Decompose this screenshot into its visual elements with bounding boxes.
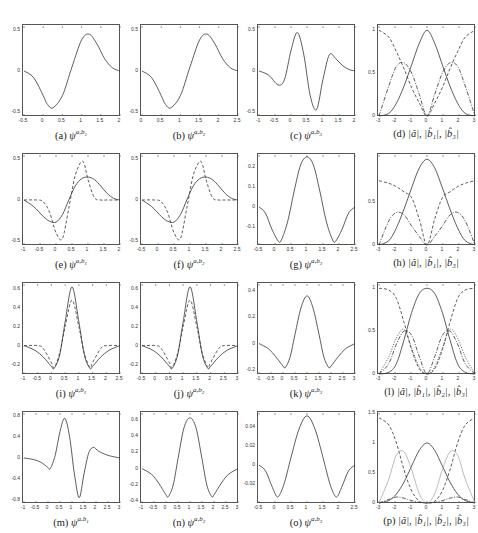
y-tick-label: -0.2 [124, 361, 138, 367]
y-tick-label: -0.5 [241, 108, 255, 114]
panel-caption: (k) ψa,b3 [247, 386, 365, 399]
plot-area [140, 282, 238, 374]
y-tick-label: -0.2 [241, 366, 255, 372]
y-tick-label: 0.2 [241, 313, 255, 319]
x-tick-label: 2.5 [216, 375, 230, 381]
caption-label: (i) [56, 388, 69, 399]
panel-caption: (h) |â|, |b̂₁|, |b̂₃| [367, 257, 478, 268]
x-tick-label: -2 [387, 375, 401, 381]
x-tick-label: 0 [150, 246, 164, 252]
caption-label: (a) [55, 130, 69, 141]
x-tick-label: 0 [267, 504, 281, 510]
plot-area [257, 24, 355, 116]
panel-g: 0.20.10-0.1-0.500.511.522.5(g) ψa,b3 [257, 153, 355, 275]
y-tick-label: 0.04 [241, 423, 255, 429]
caption-subscript: 1 [84, 390, 87, 395]
caption-label: (h) [393, 257, 408, 268]
caption-subscript: 3 [320, 390, 323, 395]
y-tick-label: 0.1 [241, 183, 255, 189]
series-line-solid [259, 33, 355, 110]
psi-symbol: ψ [304, 130, 311, 141]
y-tick-label: -0.5 [124, 237, 138, 243]
panel-b: 0.50-0.500.511.522.5(b) ψa,b2 [140, 24, 238, 146]
x-tick-label: 2.5 [347, 504, 361, 510]
series-line-dashdot [379, 331, 475, 374]
x-tick-label: 1 [80, 246, 94, 252]
x-tick-label: 1 [172, 117, 186, 123]
x-tick-label: 0 [419, 117, 433, 123]
psi-symbol: ψ [186, 388, 193, 399]
panel-h: 0.50-3-2-10123(h) |â|, |b̂₁|, |b̂₃| [377, 153, 475, 275]
series-line-solid [259, 416, 355, 497]
panel-caption: (p) |â|, |b̂₁|, |b̂₂|, |b̂₃| [367, 515, 478, 526]
y-tick-label: 0.5 [361, 198, 375, 204]
curves [141, 154, 239, 246]
plot-area [22, 24, 120, 116]
caption-label: (p) [383, 515, 398, 526]
y-tick-label: 1.5 [361, 409, 375, 415]
x-tick-label: 2 [331, 504, 345, 510]
y-tick-label: 0.4 [124, 432, 138, 438]
caption-label: (b) [173, 130, 188, 141]
curves [378, 25, 476, 117]
y-tick-label: -0.8 [6, 496, 20, 502]
plot-area [22, 282, 120, 374]
x-tick-label: 1.5 [93, 117, 107, 123]
y-tick-label: 1 [361, 439, 375, 445]
x-tick-label: 0 [48, 246, 62, 252]
series-line-solid [379, 288, 475, 374]
caption-subscript: 3 [320, 519, 323, 524]
y-tick-label: 0.5 [124, 26, 138, 32]
caption-subscript: 2 [202, 390, 205, 395]
series-line-dashed [142, 300, 238, 368]
y-tick-label: 0 [241, 203, 255, 209]
plot-area [257, 411, 355, 503]
panel-caption: (o) ψa,b3 [247, 515, 365, 528]
y-tick-label: 0 [124, 465, 138, 471]
plot-area [257, 282, 355, 374]
y-tick-label: 0 [6, 67, 20, 73]
x-tick-label: -0.5 [251, 246, 265, 252]
x-tick-label: 0 [134, 117, 148, 123]
panel-caption: (a) ψa,b1 [12, 128, 130, 141]
curves [23, 25, 121, 117]
caption-superscript: a,b3 [311, 515, 322, 523]
x-tick-label: 2 [451, 117, 465, 123]
x-tick-label: 1.5 [315, 504, 329, 510]
panel-i: 0.60.40.20-0.2-1-0.500.511.522.5(i) ψa,b… [22, 282, 120, 404]
x-tick-label: -2 [387, 246, 401, 252]
x-tick-label: 2 [451, 375, 465, 381]
panel-caption: (f) ψa,b2 [130, 257, 248, 270]
x-tick-label: -2 [387, 504, 401, 510]
plot-area [140, 411, 238, 503]
y-tick-label: -0.2 [124, 481, 138, 487]
x-tick-label: 0.5 [283, 246, 297, 252]
x-tick-label: 0 [283, 117, 297, 123]
x-tick-label: 0 [419, 246, 433, 252]
x-tick-label: -1 [403, 117, 417, 123]
x-tick-label: 3 [467, 504, 478, 510]
caption-label: (j) [174, 388, 187, 399]
caption-superscript: a,b1 [76, 257, 87, 265]
series-line-light [379, 451, 475, 503]
x-tick-label: -1 [16, 246, 30, 252]
plot-area [377, 24, 475, 116]
panel-f: 0.50-0.5-0.500.511.522.5(f) ψa,b2 [140, 153, 238, 275]
caption-math: |â|, |b̂₁|, |b̂₃| [408, 128, 459, 139]
caption-label: (o) [290, 517, 305, 528]
x-tick-label: -3 [371, 504, 385, 510]
x-tick-label: 1 [299, 504, 313, 510]
x-tick-label: 1 [435, 246, 449, 252]
x-tick-label: 1.5 [96, 246, 110, 252]
x-tick-label: 1 [435, 375, 449, 381]
curves [258, 154, 356, 246]
y-tick-label: 0 [241, 340, 255, 346]
series-line-solid [142, 287, 238, 369]
panel-e: 0.50-0.5-1-0.500.511.52(e) ψa,b1 [22, 153, 120, 275]
x-tick-label: 3 [467, 246, 478, 252]
y-tick-label: 0.5 [6, 155, 20, 161]
x-tick-label: -0.5 [16, 117, 30, 123]
x-tick-label: 3 [467, 117, 478, 123]
plot-area [140, 24, 238, 116]
panel-o: 0.040.020-0.02-0.500.511.522.5(o) ψa,b3 [257, 411, 355, 533]
